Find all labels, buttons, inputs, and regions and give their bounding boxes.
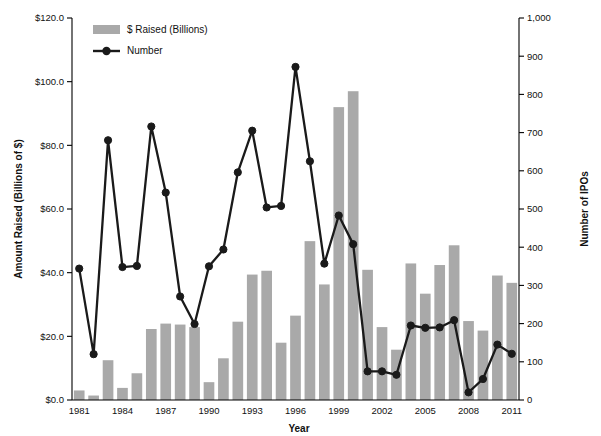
left-tick-label-80: $80.0 [40,140,64,151]
x-tick-label-1984: 1984 [112,405,133,416]
x-tick-label-2002: 2002 [371,405,392,416]
x-tick-label-1981: 1981 [69,405,90,416]
bar-1983 [103,360,114,400]
left-tick-label-40: $40.0 [40,267,64,278]
point-2006 [436,324,443,331]
point-1985 [133,262,140,269]
x-tick-label-1987: 1987 [155,405,176,416]
bar-2002 [377,327,388,400]
bar-1993 [247,275,258,400]
left-tick-label-100: $100.0 [35,76,64,87]
point-1995 [277,202,284,209]
right-tick-label-300: 300 [527,280,543,291]
bar-1981 [74,390,85,400]
legend-label-raised: $ Raised (Billions) [127,24,208,35]
legend: $ Raised (Billions) Number [93,24,208,56]
right-tick-label-500: 500 [527,203,543,214]
bar-1990 [204,382,215,400]
right-tick-label-400: 400 [527,242,543,253]
point-1982 [90,351,97,358]
right-tick-label-800: 800 [527,89,543,100]
bar-1989 [189,327,200,400]
right-tick-label-600: 600 [527,165,543,176]
x-tick-label-1993: 1993 [242,405,263,416]
x-tick-label-2005: 2005 [415,405,436,416]
point-2002 [378,368,385,375]
right-axis-ticks: 01002003004005006007008009001,000 [519,12,551,405]
bar-1986 [146,329,157,400]
right-tick-label-100: 100 [527,356,543,367]
bar-1988 [175,325,186,400]
bar-2010 [492,276,503,400]
bar-1995 [276,343,287,400]
point-2003 [393,371,400,378]
ipo-chart: $0.0$20.0$40.0$60.0$80.0$100.0$120.0 010… [0,0,601,436]
right-tick-label-0: 0 [527,394,532,405]
x-tick-label-2008: 2008 [458,405,479,416]
x-tick-label-1996: 1996 [285,405,306,416]
point-1984 [119,263,126,270]
point-2009 [479,375,486,382]
point-1986 [148,123,155,130]
bar-1998 [319,284,330,400]
point-1989 [191,320,198,327]
bar-1994 [261,271,272,400]
point-1990 [205,263,212,270]
point-1981 [76,265,83,272]
bar-2011 [506,283,517,400]
point-1991 [220,246,227,253]
bottom-axis-ticks: 1981198419871990199319961999200220052008… [69,405,522,416]
left-tick-label-120: $120.0 [35,12,64,23]
bar-1999 [333,107,344,400]
point-2001 [364,368,371,375]
point-1988 [177,293,184,300]
bar-1996 [290,316,301,400]
point-1994 [263,204,270,211]
point-1999 [335,212,342,219]
bar-1982 [88,396,99,400]
x-tick-label-2011: 2011 [502,405,522,416]
bar-2006 [434,265,445,400]
right-axis-title: Number of IPOs [579,171,590,247]
point-2011 [508,350,515,357]
x-tick-label-1999: 1999 [328,405,349,416]
right-tick-label-900: 900 [527,51,543,62]
x-tick-label-1990: 1990 [198,405,219,416]
bar-2009 [478,331,489,400]
right-tick-label-700: 700 [527,127,543,138]
right-tick-label-200: 200 [527,318,543,329]
point-1983 [104,137,111,144]
point-1987 [162,189,169,196]
point-2000 [350,241,357,248]
point-2008 [465,389,472,396]
bar-1987 [160,324,171,400]
point-2010 [494,341,501,348]
left-axis-ticks: $0.0$20.0$40.0$60.0$80.0$100.0$120.0 [35,12,72,405]
left-tick-label-60: $60.0 [40,203,64,214]
point-2004 [407,322,414,329]
bar-1984 [117,388,128,400]
x-axis-title: Year [288,423,309,434]
chart-canvas: $0.0$20.0$40.0$60.0$80.0$100.0$120.0 010… [0,0,601,436]
bar-1985 [132,373,143,400]
point-1997 [306,158,313,165]
legend-marker-number [102,47,110,55]
bar-2004 [406,263,417,400]
bar-2005 [420,294,431,400]
legend-swatch-raised [93,25,120,34]
bar-series-raised [74,91,517,400]
left-axis-title: Amount Raised (Billions of $) [13,139,24,278]
point-1998 [321,260,328,267]
point-1992 [234,169,241,176]
bar-1991 [218,358,229,400]
left-tick-label-20: $20.0 [40,331,64,342]
point-1993 [249,127,256,134]
point-2005 [422,324,429,331]
bar-1992 [232,322,243,400]
point-1996 [292,63,299,70]
right-tick-label-1000: 1,000 [527,12,551,23]
bar-1997 [305,241,316,400]
legend-label-number: Number [127,45,163,56]
left-tick-label-0: $0.0 [46,394,65,405]
point-2007 [451,317,458,324]
